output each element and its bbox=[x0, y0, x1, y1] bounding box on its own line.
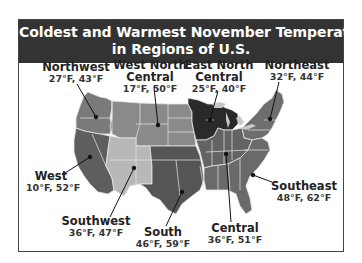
region-name: Southeast bbox=[268, 180, 340, 192]
region-temps: 36°F, 47°F bbox=[58, 227, 134, 238]
label-central: Central 36°F, 51°F bbox=[205, 222, 265, 245]
region-name: Southwest bbox=[58, 215, 134, 227]
region-temps: 32°F, 44°F bbox=[262, 71, 332, 82]
region-temps: 17°F, 50°F bbox=[110, 83, 190, 94]
us-regions-map bbox=[0, 0, 362, 263]
label-northeast: Northeast 32°F, 44°F bbox=[262, 59, 332, 82]
dot-southeast bbox=[251, 173, 255, 177]
label-southeast: Southeast 48°F, 62°F bbox=[268, 180, 340, 203]
label-east-north-central: East North Central 25°F, 40°F bbox=[181, 59, 257, 94]
region-temps: 48°F, 62°F bbox=[268, 192, 340, 203]
label-west: West 10°F, 52°F bbox=[26, 170, 76, 193]
dot-northwest bbox=[94, 115, 98, 119]
region-temps: 46°F, 59°F bbox=[128, 238, 198, 249]
region-name: West bbox=[26, 170, 76, 182]
dot-central bbox=[224, 152, 228, 156]
label-northwest: Northwest 27°F, 43°F bbox=[38, 61, 114, 84]
region-temps: 25°F, 40°F bbox=[181, 83, 257, 94]
region-name-line2: Central bbox=[181, 71, 257, 83]
region-name-line2: Central bbox=[110, 71, 190, 83]
dot-east-north-central bbox=[208, 118, 212, 122]
dot-southwest bbox=[132, 166, 136, 170]
region-temps: 36°F, 51°F bbox=[205, 234, 265, 245]
dot-northeast bbox=[268, 117, 272, 121]
label-south: South 46°F, 59°F bbox=[128, 226, 198, 249]
region-northeast bbox=[242, 90, 284, 140]
dot-south bbox=[180, 190, 184, 194]
dot-west bbox=[88, 155, 92, 159]
region-name: Northwest bbox=[38, 61, 114, 73]
label-west-north-central: West North Central 17°F, 50°F bbox=[110, 59, 190, 94]
region-name: Central bbox=[205, 222, 265, 234]
region-name: Northeast bbox=[262, 59, 332, 71]
dot-west-north-central bbox=[156, 123, 160, 127]
label-southwest: Southwest 36°F, 47°F bbox=[58, 215, 134, 238]
region-temps: 27°F, 43°F bbox=[38, 73, 114, 84]
region-name: South bbox=[128, 226, 198, 238]
region-temps: 10°F, 52°F bbox=[26, 182, 76, 193]
